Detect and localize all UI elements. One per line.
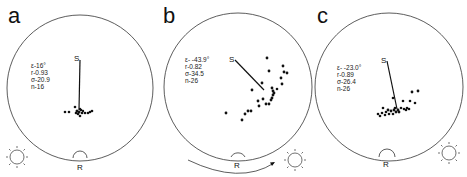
stat-sigma: σ-26.4 bbox=[337, 78, 356, 85]
mean-vector bbox=[235, 60, 264, 90]
stat-n: n-26 bbox=[185, 77, 198, 84]
panel-c: c R S ε- -23.0° r-0.89 σ-26.4 n-26 bbox=[315, 3, 463, 169]
panel-label-c: c bbox=[317, 3, 328, 28]
r-marker bbox=[379, 149, 395, 157]
stats-block: ε-16° r-0.93 σ-20.9 n-16 bbox=[31, 62, 50, 90]
stat-r: r-0.93 bbox=[31, 69, 48, 76]
rotation-arrow bbox=[188, 160, 274, 173]
sun-icon bbox=[284, 149, 306, 171]
r-label: R bbox=[234, 161, 240, 170]
r-marker bbox=[73, 151, 87, 158]
stat-sigma: σ-34.5 bbox=[185, 70, 204, 77]
data-points bbox=[225, 57, 289, 122]
stat-n: n-16 bbox=[31, 83, 44, 90]
panel-b: b R S ε- -43.9° r-0.82 σ-34.5 n-26 bbox=[163, 3, 312, 173]
arena-circle bbox=[164, 13, 312, 161]
mean-vector bbox=[79, 60, 80, 110]
stats-block: ε- -43.9° r-0.82 σ-34.5 n-26 bbox=[185, 56, 210, 84]
s-label: S bbox=[381, 56, 386, 65]
stat-epsilon: ε-16° bbox=[31, 62, 46, 69]
sun-icon bbox=[6, 146, 28, 168]
stat-r: r-0.82 bbox=[185, 63, 202, 70]
r-label: R bbox=[383, 160, 389, 169]
stats-block: ε- -23.0° r-0.89 σ-26.4 n-26 bbox=[337, 64, 362, 92]
r-label: R bbox=[77, 163, 83, 172]
stat-epsilon: ε- -43.9° bbox=[185, 56, 210, 63]
stat-epsilon: ε- -23.0° bbox=[337, 64, 362, 71]
panel-label-a: a bbox=[8, 3, 21, 28]
s-label: S bbox=[74, 54, 79, 63]
mean-vector bbox=[387, 61, 397, 109]
panel-label-b: b bbox=[163, 3, 175, 28]
r-marker bbox=[231, 153, 245, 157]
stat-n: n-26 bbox=[337, 85, 350, 92]
data-points bbox=[377, 90, 420, 118]
panel-a: a R S ε-16° r-0.93 σ-20.9 n-16 bbox=[6, 3, 153, 172]
circular-statistics-figure: a R S ε-16° r-0.93 σ-20.9 n-16 bbox=[0, 0, 467, 177]
s-label: S bbox=[229, 55, 234, 64]
sun-icon bbox=[438, 142, 460, 164]
stat-sigma: σ-20.9 bbox=[31, 76, 50, 83]
stat-r: r-0.89 bbox=[337, 71, 354, 78]
